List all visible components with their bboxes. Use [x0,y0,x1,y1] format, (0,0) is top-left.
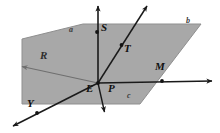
point-dot-S [95,30,99,34]
point-dot-Y [35,111,39,115]
point-label-R: R [40,50,47,61]
point-label-Y: Y [27,98,34,109]
point-label-S: S [101,22,107,33]
point-dot-M [160,79,164,83]
point-label-M: M [155,61,165,72]
plane-label-a: a [69,26,73,34]
point-label-E: E [86,83,93,94]
point-label-P: P [108,83,115,94]
point-dot-T [120,43,124,47]
geometry-figure: S T M E Y P R a b c [0,0,220,133]
plane-label-b: b [186,17,190,25]
plane-label-c: c [127,92,131,100]
point-dot-E [96,81,100,85]
point-label-T: T [124,43,131,54]
